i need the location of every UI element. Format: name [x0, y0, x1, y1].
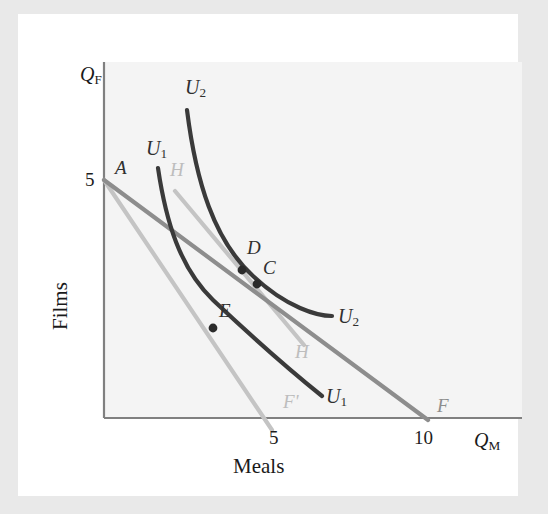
point-label-f-prime: F'	[283, 392, 299, 411]
x-tick-label-5: 5	[269, 428, 279, 447]
curve-label-u1-top: U1	[146, 138, 167, 160]
figure-root: QF QM Films Meals 5 5 10 A D C E F F' H …	[0, 0, 548, 514]
curve-label-u2-right: U2	[338, 306, 359, 328]
y-axis-caption: Films	[50, 282, 71, 330]
x-tick-label-10: 10	[414, 428, 433, 447]
curve-label-u2-top: U2	[185, 77, 206, 99]
point-marker-c	[253, 280, 262, 289]
curve-label-u1-right: U1	[326, 386, 347, 408]
budget-line-af	[104, 180, 428, 420]
y-axis-symbol: QF	[80, 64, 102, 86]
point-label-a: A	[115, 158, 127, 177]
x-axis-caption: Meals	[233, 456, 284, 477]
point-label-e: E	[219, 301, 231, 320]
point-label-d: D	[247, 238, 261, 257]
point-label-h-upper: H	[170, 160, 184, 179]
budget-line-af-prime	[104, 180, 272, 430]
point-marker-d	[238, 266, 247, 275]
point-label-c: C	[263, 258, 276, 277]
x-axis-symbol: QM	[474, 430, 500, 452]
y-tick-label-5: 5	[85, 170, 95, 189]
point-marker-e	[209, 324, 218, 333]
point-label-h-lower: H	[295, 342, 309, 361]
point-label-f: F	[437, 396, 449, 415]
